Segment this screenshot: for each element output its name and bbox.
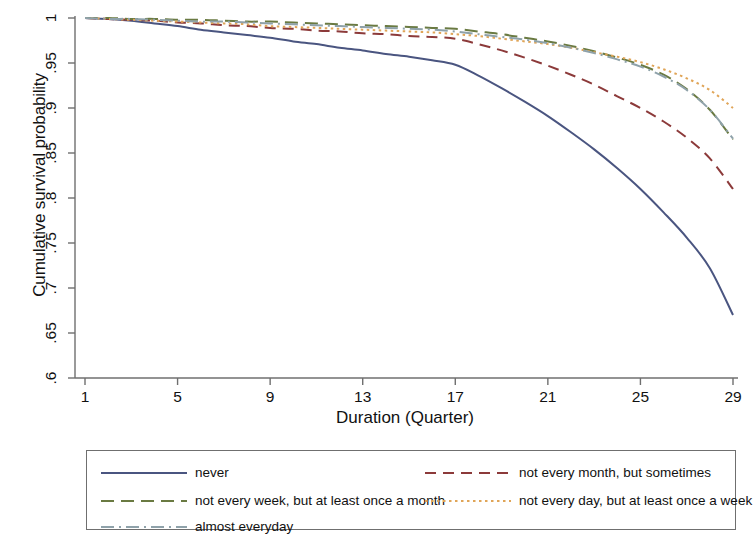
y-tick-label: .9 [42,91,60,125]
legend-swatch-icon [101,520,187,534]
y-tick-label: .95 [42,46,60,80]
legend-label: never [195,466,229,480]
y-tick-label: .7 [42,271,60,305]
y-tick-label: .85 [42,136,60,170]
x-tick-label: 13 [343,388,383,406]
plot-area: Cumulative survival probability Duration… [0,0,744,440]
legend-swatch-icon [425,466,511,480]
x-axis-title: Duration (Quarter) [75,408,735,428]
x-tick-label: 29 [713,388,753,406]
x-tick-label: 9 [250,388,290,406]
y-tick-label: .6 [42,361,60,395]
legend-label: not every month, but sometimes [519,466,711,480]
legend-label: almost everyday [195,520,293,534]
legend-swatch-icon [101,466,187,480]
x-tick-label: 17 [435,388,475,406]
legend-swatch-icon [425,494,511,508]
y-tick-label: .8 [42,181,60,215]
series-line [85,18,733,189]
legend-label: not every week, but at least once a mont… [195,494,445,508]
x-tick-label: 1 [65,388,105,406]
series-line [85,18,733,108]
y-tick-label: .75 [42,226,60,260]
x-tick-label: 25 [620,388,660,406]
x-tick-label: 5 [158,388,198,406]
legend-item[interactable]: not every month, but sometimes [425,463,711,483]
y-tick-label: 1 [42,1,60,35]
chart-canvas [0,0,744,440]
x-tick-label: 21 [528,388,568,406]
legend-label: not every day, but at least once a week [519,494,752,508]
legend-item[interactable]: almost everyday [101,517,293,535]
legend-item[interactable]: never [101,463,229,483]
series-line [85,18,733,315]
legend-swatch-icon [101,494,187,508]
legend-entries: nevernot every month, but sometimesnot e… [87,451,735,529]
legend: nevernot every month, but sometimesnot e… [86,450,736,530]
y-tick-label: .65 [42,316,60,350]
legend-item[interactable]: not every week, but at least once a mont… [101,491,445,511]
legend-item[interactable]: not every day, but at least once a week [425,491,752,511]
